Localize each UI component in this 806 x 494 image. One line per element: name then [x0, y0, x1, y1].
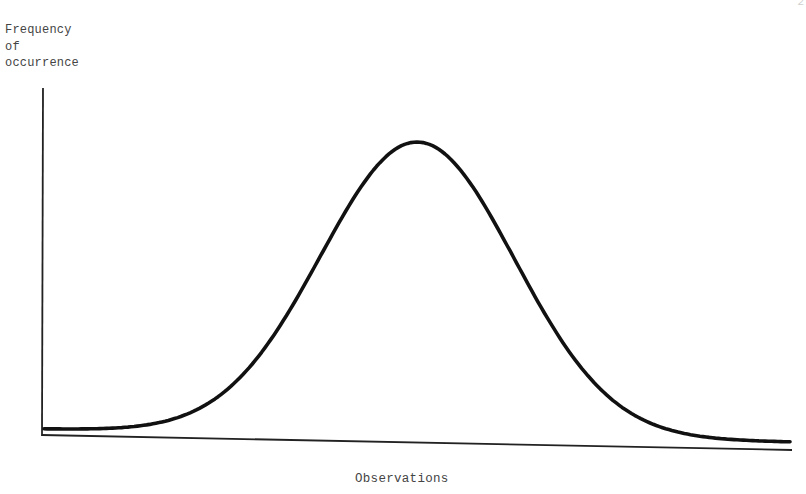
x-axis-label: Observations: [355, 472, 449, 486]
y-axis: [42, 88, 43, 436]
x-axis: [42, 435, 792, 450]
chart-plot-area: [0, 0, 806, 494]
normal-distribution-curve: [44, 142, 790, 442]
